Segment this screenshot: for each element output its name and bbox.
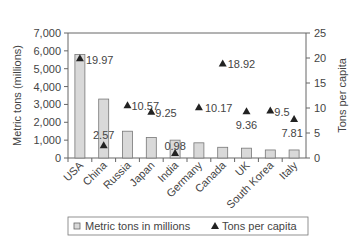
bar-south-korea (265, 150, 275, 158)
y-tick-label: 3,000 (33, 98, 61, 110)
y-tick-label: 6,000 (33, 45, 61, 57)
bar-canada (218, 147, 228, 158)
y2-tick-label: 0 (314, 152, 320, 164)
triangle-marker-icon (219, 59, 227, 66)
y-tick-label: 1,000 (33, 134, 61, 146)
y2-tick-label: 25 (314, 27, 326, 39)
y2-tick-label: 5 (314, 127, 320, 139)
y2-axis-label: Tons per capita (336, 57, 348, 132)
triangle-marker-icon (195, 103, 203, 110)
y-tick-label: 4,000 (33, 81, 61, 93)
bar-germany (194, 143, 204, 158)
data-label: 0.98 (164, 140, 185, 152)
bar-japan (146, 137, 156, 158)
bar-russia (123, 131, 133, 158)
combo-chart: 01,0002,0003,0004,0005,0006,0007,0000510… (0, 0, 356, 249)
data-label: 9.5 (274, 106, 289, 118)
legend-bar-swatch-icon (74, 223, 80, 229)
y2-tick-label: 10 (314, 102, 326, 114)
triangle-marker-icon (290, 115, 298, 122)
data-label: 9.25 (155, 107, 176, 119)
data-label: 19.97 (86, 54, 114, 66)
y-tick-label: 7,000 (33, 27, 61, 39)
chart-container: 01,0002,0003,0004,0005,0006,0007,0000510… (0, 0, 356, 249)
legend-bar-label: Metric tons in millions (85, 220, 191, 232)
y-axis-label: Metric tons (millions) (11, 45, 23, 146)
data-label: 10.17 (205, 102, 233, 114)
x-tick-label: Italy (277, 159, 300, 182)
y-tick-label: 2,000 (33, 116, 61, 128)
x-tick-label: UK (233, 158, 253, 178)
data-label: 9.36 (236, 119, 257, 131)
triangle-marker-icon (243, 107, 251, 114)
y-tick-label: 0 (55, 152, 61, 164)
triangle-marker-icon (124, 101, 132, 108)
legend-marker-label: Tons per capita (222, 220, 297, 232)
y2-tick-label: 20 (314, 52, 326, 64)
bar-usa (75, 54, 85, 158)
y2-tick-label: 15 (314, 77, 326, 89)
x-tick-label: Japan (127, 159, 157, 189)
data-label: 7.81 (281, 127, 302, 139)
y-tick-label: 5,000 (33, 63, 61, 75)
bar-italy (289, 150, 299, 158)
bar-uk (242, 148, 252, 158)
data-label: 18.92 (228, 58, 256, 70)
x-tick-label: Russia (101, 158, 134, 191)
data-label: 2.57 (93, 129, 114, 141)
triangle-marker-icon (266, 107, 274, 114)
